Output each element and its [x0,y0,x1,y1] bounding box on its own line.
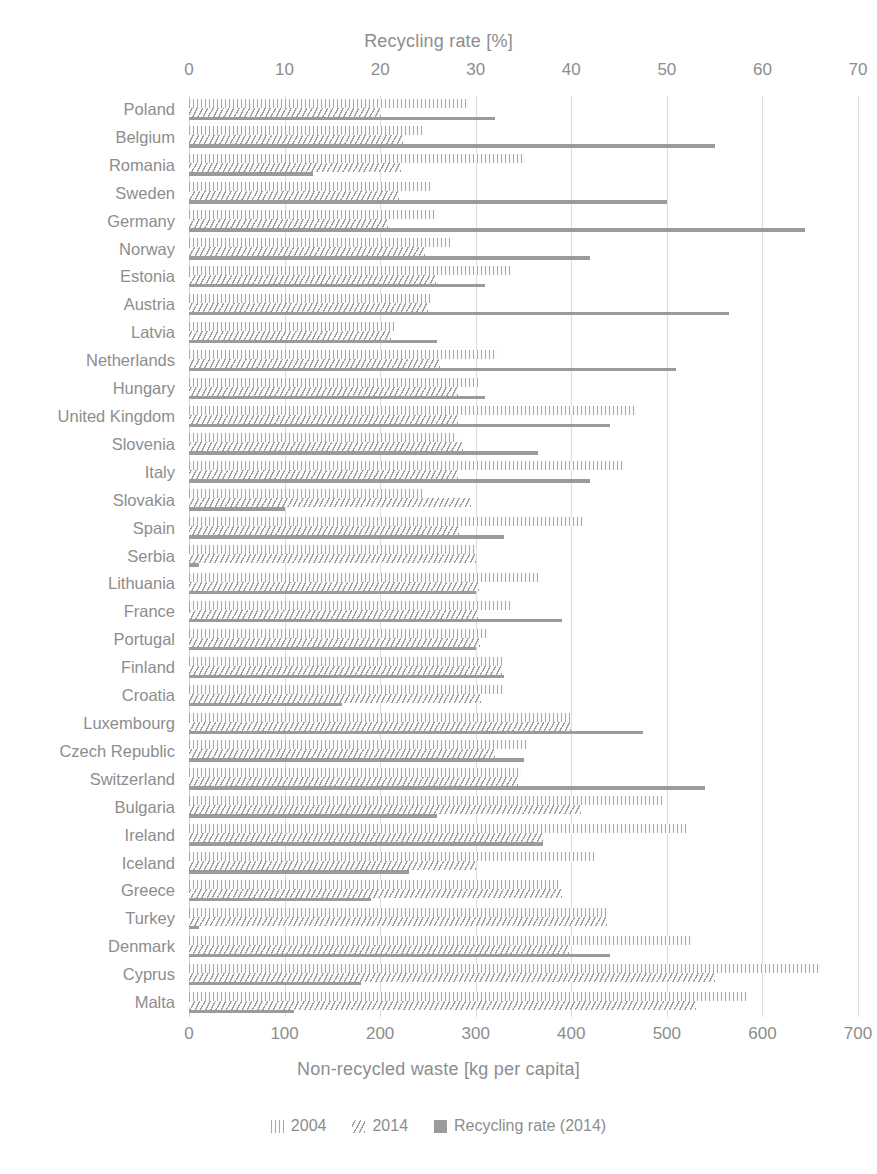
bar-group [189,626,858,654]
bar-recycling-rate [189,647,476,651]
bar-recycling-rate [189,703,342,707]
bar-2004 [189,852,594,861]
category-label: United Kingdom [58,408,175,425]
category-label: Spain [133,520,175,537]
bar-group [189,738,858,766]
category-label: Denmark [108,938,175,955]
bar-2004 [189,880,559,889]
category-label: Portugal [114,631,175,648]
bar-group [189,96,858,124]
bar-2004 [189,964,820,973]
category-label: Finland [121,659,175,676]
bar-recycling-rate [189,814,437,818]
category-label: Norway [119,241,175,258]
category-label: Lithuania [108,575,175,592]
tick-label: 200 [366,1024,394,1044]
bar-recycling-rate [189,144,715,148]
chart-legend: 20042014Recycling rate (2014) [0,1117,877,1135]
plot-area [189,96,858,1017]
bar-2014 [189,694,481,703]
bar-2004 [189,489,422,498]
bar-2014 [189,833,543,842]
tick-label: 10 [275,60,294,80]
category-label: Belgium [115,129,175,146]
category-label: Estonia [120,268,175,285]
bar-2004 [189,406,636,415]
bar-2014 [189,359,440,368]
tick-label: 600 [748,1024,776,1044]
legend-swatch-icon [271,1120,284,1133]
tick-label: 50 [657,60,676,80]
bar-2014 [189,219,388,228]
bar-2004 [189,210,435,219]
bar-recycling-rate [189,117,495,121]
tick-label: 700 [844,1024,872,1044]
category-label: Slovakia [113,492,175,509]
category-label: Switzerland [90,771,175,788]
bar-2004 [189,768,521,777]
bottom-axis-ticks: 0100200300400500600700 [0,1024,877,1046]
bar-group [189,375,858,403]
bar-recycling-rate [189,591,476,595]
bar-recycling-rate [189,1010,294,1014]
bar-group [189,347,858,375]
category-label: Hungary [113,380,175,397]
bar-recycling-rate [189,731,643,735]
bar-2014 [189,582,479,591]
bar-recycling-rate [189,870,409,874]
bar-2014 [189,1001,696,1010]
bar-recycling-rate [189,312,729,316]
bar-group [189,236,858,264]
bar-2004 [189,154,525,163]
bar-2014 [189,303,428,312]
category-label: Czech Republic [59,743,175,760]
bar-group [189,208,858,236]
bar-recycling-rate [189,786,705,790]
bar-2004 [189,936,693,945]
legend-item[interactable]: 2004 [271,1117,327,1135]
bar-2014 [189,554,476,563]
bar-recycling-rate [189,535,504,539]
bar-2004 [189,322,394,331]
bar-recycling-rate [189,396,485,400]
bar-group [189,431,858,459]
legend-item[interactable]: Recycling rate (2014) [434,1117,606,1135]
bar-2004 [189,713,570,722]
category-label: Netherlands [86,352,175,369]
category-label: Ireland [125,827,175,844]
bar-2004 [189,378,478,387]
tick-label: 20 [371,60,390,80]
bar-recycling-rate [189,842,543,846]
bar-recycling-rate [189,926,199,930]
tick-label: 60 [753,60,772,80]
bar-2014 [189,442,463,451]
legend-label: Recycling rate (2014) [454,1117,606,1135]
category-label: Turkey [125,910,175,927]
bar-2014 [189,749,495,758]
bar-2014 [189,191,399,200]
tick-label: 300 [462,1024,490,1044]
category-label: Greece [121,882,175,899]
bar-recycling-rate [189,898,371,902]
bar-group [189,152,858,180]
bar-recycling-rate [189,563,199,567]
legend-swatch-icon [352,1120,365,1133]
legend-label: 2014 [372,1117,408,1135]
category-label: Iceland [122,855,175,872]
tick-label: 0 [184,60,193,80]
legend-item[interactable]: 2014 [352,1117,408,1135]
bar-2014 [189,666,502,675]
category-label: Austria [124,296,175,313]
bar-2004 [189,992,748,1001]
bar-2014 [189,805,581,814]
bar-group [189,291,858,319]
bar-2014 [189,415,458,424]
bar-recycling-rate [189,172,313,176]
bar-recycling-rate [189,256,590,260]
bar-recycling-rate [189,228,805,232]
bar-2004 [189,433,457,442]
bar-2004 [189,294,432,303]
bar-2014 [189,722,571,731]
bar-2014 [189,777,518,786]
bar-2004 [189,238,450,247]
